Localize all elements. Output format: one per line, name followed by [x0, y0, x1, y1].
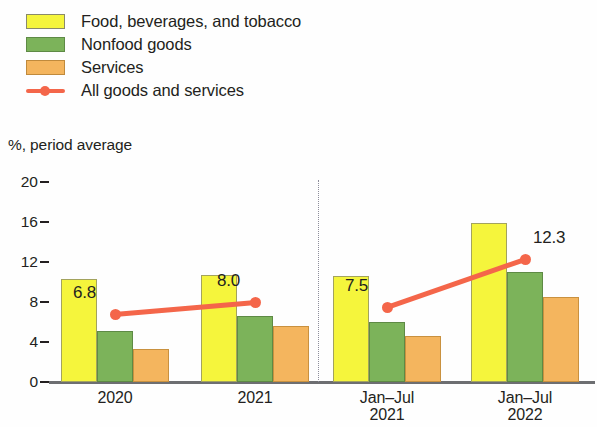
period-divider-line	[318, 180, 319, 382]
y-tick-mark	[40, 301, 49, 303]
x-tick-label-line: Jan–Jul	[465, 389, 585, 406]
y-tick-mark	[40, 181, 49, 183]
line-series-marker	[382, 302, 393, 313]
x-tick-label-line: 2021	[327, 406, 447, 423]
bar-food	[471, 223, 507, 382]
y-tick-mark	[40, 261, 49, 263]
bar-services	[133, 349, 169, 382]
data-point-label: 8.0	[217, 272, 240, 289]
x-tick-label: 2021	[195, 389, 315, 406]
y-tick-label: 20	[4, 174, 38, 190]
line-series-marker	[250, 297, 261, 308]
x-tick-label-line: 2022	[465, 406, 585, 423]
y-tick-label: 8	[4, 294, 38, 310]
y-tick-mark	[40, 341, 49, 343]
chart-page: Food, beverages, and tobacco Nonfood goo…	[0, 0, 597, 427]
bar-nonfood	[97, 331, 133, 382]
x-tick-label-line: Jan–Jul	[327, 389, 447, 406]
data-point-label: 12.3	[533, 229, 565, 246]
y-tick-mark	[40, 381, 49, 383]
bar-nonfood	[237, 316, 273, 382]
bar-nonfood	[507, 272, 543, 382]
bar-services	[405, 336, 441, 382]
x-tick-label-line: 2020	[55, 389, 175, 406]
line-series-marker	[110, 309, 121, 320]
data-point-label: 7.5	[345, 277, 368, 294]
x-tick-label: Jan–Jul2022	[465, 389, 585, 423]
y-tick-label: 0	[4, 374, 38, 390]
y-tick-label: 12	[4, 254, 38, 270]
data-point-label: 6.8	[73, 284, 96, 301]
x-tick-label: Jan–Jul2021	[327, 389, 447, 423]
bar-food	[201, 275, 237, 382]
y-tick-label: 16	[4, 214, 38, 230]
x-tick-label-line: 2021	[195, 389, 315, 406]
bar-services	[543, 297, 579, 382]
bar-services	[273, 326, 309, 382]
y-tick-label: 4	[4, 334, 38, 350]
y-tick-mark	[40, 221, 49, 223]
bar-nonfood	[369, 322, 405, 382]
plot-area: 04812162020202021Jan–Jul2021Jan–Jul20226…	[0, 0, 597, 427]
x-tick-label: 2020	[55, 389, 175, 406]
line-series-marker	[520, 254, 531, 265]
